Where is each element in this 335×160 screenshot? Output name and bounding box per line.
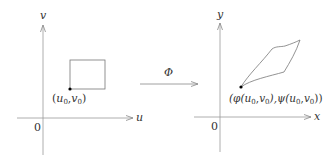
diagram-svg	[0, 0, 335, 160]
paren: )	[82, 92, 86, 105]
x-axis-label: x	[314, 111, 320, 122]
psi-open: ),ψ(	[270, 92, 290, 104]
domain-point	[68, 87, 71, 90]
domain-point-label: (u0,v0)	[52, 93, 86, 106]
diagram-canvas: v u 0 (u0,v0) Φ y x 0 (φ(u0,v0),ψ(u0,v0)…	[0, 0, 335, 160]
u-axis-label: u	[136, 112, 143, 123]
close-parens: ))	[314, 92, 322, 104]
image-point	[239, 85, 242, 88]
image-point-label: (φ(u0,v0),ψ(u0,v0))	[229, 93, 322, 106]
mapping-label: Φ	[164, 67, 173, 78]
y-axis-label: y	[217, 9, 223, 20]
domain-rectangle	[70, 60, 105, 89]
image-region	[241, 40, 300, 87]
left-origin-label: 0	[34, 122, 41, 133]
v-axis-label: v	[40, 10, 46, 21]
phi-open: (φ(	[229, 92, 245, 104]
right-origin-label: 0	[211, 121, 218, 132]
